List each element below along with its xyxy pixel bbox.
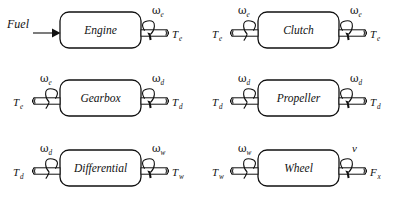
input-shaft-gearbox: ω e T e (13, 72, 60, 111)
shaft-icon (339, 89, 367, 108)
input-speed-sub-differential: d (49, 149, 53, 157)
input-shaft-wheel: ω w T w (212, 142, 258, 181)
input-torque-gearbox: T (13, 96, 20, 108)
input-speed-sub-clutch: e (247, 11, 251, 19)
output-torque-sub-differential: w (179, 173, 184, 181)
input-torque-sub-gearbox: e (20, 103, 24, 111)
output-torque-gearbox: T (172, 96, 179, 108)
output-shaft-differential: ω w T w (141, 142, 184, 181)
output-shaft-clutch: ω e T e (339, 4, 381, 43)
input-torque-clutch: T (212, 28, 219, 40)
shaft-icon (339, 21, 367, 40)
shaft-icon (230, 159, 258, 179)
block-label-engine: Engine (83, 24, 117, 37)
shaft-icon (32, 89, 60, 109)
powertrain-block-diagram: Engine Fuel ω e T e Clutch ω e T e ω (0, 0, 398, 205)
output-torque-engine: T (172, 28, 179, 40)
input-shaft-propeller: ω d T d (212, 72, 258, 111)
output-torque-propeller: T (370, 96, 377, 108)
block-group-differential: Differential ω d T d ω w T w (13, 142, 184, 186)
block-label-propeller: Propeller (276, 92, 321, 105)
shaft-icon (141, 159, 169, 178)
output-shaft-engine: ω e T e (141, 4, 183, 43)
input-label-engine-fuel: Fuel (6, 17, 30, 31)
block-group-engine: Engine Fuel ω e T e (6, 4, 183, 48)
output-speed-sub-engine: e (161, 11, 165, 19)
output-speed-sub-propeller: d (359, 79, 363, 87)
output-shaft-propeller: ω d T d (339, 72, 381, 111)
input-shaft-clutch: ω e T e (212, 4, 258, 43)
input-torque-sub-wheel: w (219, 173, 224, 181)
output-torque-sub-propeller: d (377, 103, 381, 111)
input-torque-wheel: T (212, 166, 219, 178)
input-shaft-differential: ω d T d (13, 142, 60, 181)
block-label-differential: Differential (73, 162, 127, 175)
output-speed-wheel: v (352, 142, 357, 154)
input-speed-sub-gearbox: e (49, 79, 53, 87)
output-torque-sub-gearbox: d (179, 103, 183, 111)
input-speed-sub-propeller: d (247, 79, 251, 87)
block-group-wheel: Wheel ω w T w v F x (212, 142, 382, 186)
output-torque-wheel: F (369, 166, 377, 178)
shaft-icon (230, 89, 258, 109)
output-torque-sub-clutch: e (377, 35, 381, 43)
block-group-propeller: Propeller ω d T d ω d T d (212, 72, 381, 116)
shaft-icon (32, 159, 60, 179)
output-speed-sub-clutch: e (359, 11, 363, 19)
input-torque-differential: T (13, 166, 20, 178)
shaft-icon (141, 89, 169, 108)
output-shaft-gearbox: ω d T d (141, 72, 183, 111)
shaft-icon (141, 21, 169, 40)
shaft-icon (230, 21, 258, 41)
input-torque-propeller: T (212, 96, 219, 108)
output-torque-sub-wheel: x (377, 173, 382, 181)
output-torque-sub-engine: e (179, 35, 183, 43)
input-torque-sub-clutch: e (219, 35, 223, 43)
block-label-gearbox: Gearbox (80, 92, 121, 104)
output-speed-sub-gearbox: d (161, 79, 165, 87)
output-torque-clutch: T (370, 28, 377, 40)
block-group-clutch: Clutch ω e T e ω e T e (212, 4, 381, 48)
output-speed-sub-differential: w (161, 149, 166, 157)
output-torque-differential: T (172, 166, 179, 178)
block-group-gearbox: Gearbox ω e T e ω d T d (13, 72, 183, 116)
block-label-wheel: Wheel (284, 162, 313, 174)
input-torque-sub-propeller: d (219, 103, 223, 111)
input-torque-sub-differential: d (20, 173, 24, 181)
arrow-head-icon (52, 29, 61, 38)
output-shaft-wheel: v F x (339, 142, 382, 181)
input-speed-sub-wheel: w (247, 149, 252, 157)
shaft-icon (339, 159, 367, 178)
input-signal-engine-fuel: Fuel (6, 17, 61, 37)
block-label-clutch: Clutch (283, 24, 314, 36)
